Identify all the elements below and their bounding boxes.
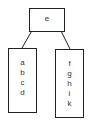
- list-item: c: [21, 78, 25, 88]
- list-item: k: [68, 99, 72, 109]
- root-node: e: [29, 8, 65, 32]
- root-node-label: e: [45, 15, 49, 23]
- left-child-node: a b c d: [8, 48, 37, 113]
- list-item: f: [68, 59, 70, 69]
- list-item: g: [67, 69, 71, 79]
- list-item: a: [20, 58, 24, 68]
- right-child-node: f g h i k: [55, 49, 84, 118]
- list-item: b: [20, 68, 24, 78]
- list-item: h: [67, 79, 71, 89]
- list-item: d: [20, 88, 24, 98]
- list-item: i: [69, 89, 71, 99]
